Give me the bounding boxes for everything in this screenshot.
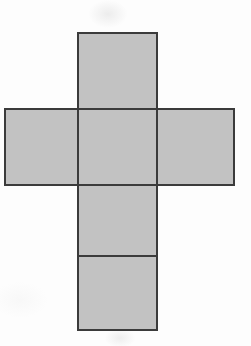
cube-net-figure bbox=[0, 0, 251, 346]
face-right bbox=[157, 109, 234, 185]
net-faces bbox=[5, 33, 234, 330]
face-center bbox=[78, 109, 157, 185]
figure-page bbox=[0, 0, 251, 346]
face-top bbox=[78, 33, 157, 109]
face-back bbox=[78, 256, 157, 330]
face-bottom bbox=[78, 185, 157, 256]
face-left bbox=[5, 109, 78, 185]
